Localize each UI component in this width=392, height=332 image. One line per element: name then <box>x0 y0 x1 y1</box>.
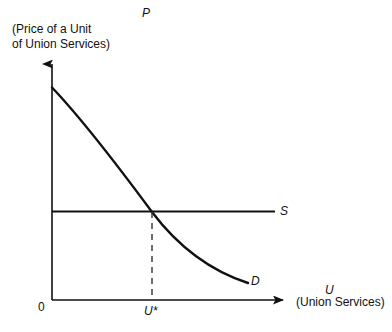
y-axis-description-label: (Price of a Unit of Union Services) <box>12 22 110 51</box>
economics-supply-demand-figure: P (Price of a Unit of Union Services) U … <box>0 0 392 332</box>
equilibrium-tick-label: U* <box>144 304 157 319</box>
demand-curve <box>52 88 248 284</box>
y-axis-symbol-label: P <box>142 6 150 21</box>
y-axis-description-line-1: (Price of a Unit <box>12 22 110 37</box>
x-axis-description-label: (Union Services) <box>296 295 385 310</box>
origin-label: 0 <box>38 300 45 315</box>
demand-curve-label: D <box>251 274 260 289</box>
supply-curve-label: S <box>280 204 288 219</box>
y-axis-description-line-2: of Union Services) <box>12 37 110 52</box>
